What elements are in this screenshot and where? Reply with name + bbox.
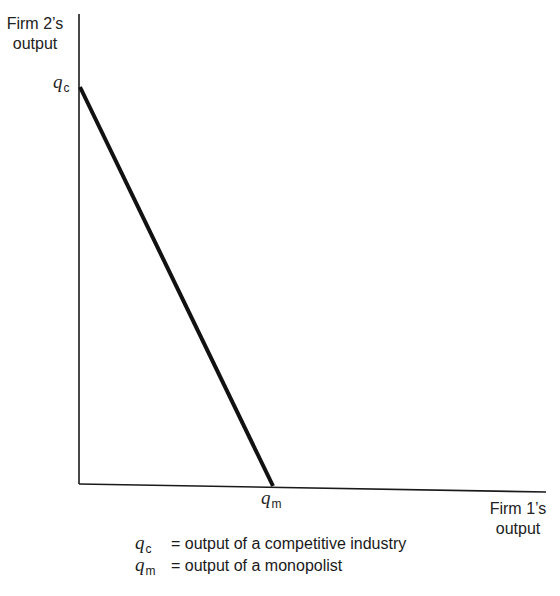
qm-tick-label: qm [261, 488, 282, 510]
x-axis [79, 484, 546, 492]
output-line [80, 87, 273, 486]
y-axis-label-line2: output [2, 34, 68, 54]
legend-qm-symbol: q [135, 554, 145, 575]
legend-row-qm: qm= output of a monopolist [135, 554, 342, 578]
x-axis-label-line1: Firm 1’s [478, 499, 558, 519]
y-axis-label: Firm 2’s output [2, 14, 68, 54]
y-axis-label-line1: Firm 2’s [2, 14, 68, 34]
qc-tick-label: qc [53, 72, 70, 94]
legend-qm-subscript: m [146, 564, 156, 578]
x-axis-label: Firm 1’s output [478, 499, 558, 539]
legend-qm-text: = output of a monopolist [171, 557, 342, 574]
x-axis-label-line2: output [478, 519, 558, 539]
legend-qc-text: = output of a competitive industry [171, 535, 406, 552]
qc-symbol: q [53, 71, 63, 92]
qm-symbol: q [261, 487, 271, 508]
qc-subscript: c [64, 81, 70, 95]
legend-row-qc: qc= output of a competitive industry [135, 532, 406, 556]
legend-qc-symbol: q [135, 532, 145, 553]
qm-subscript: m [272, 497, 282, 511]
